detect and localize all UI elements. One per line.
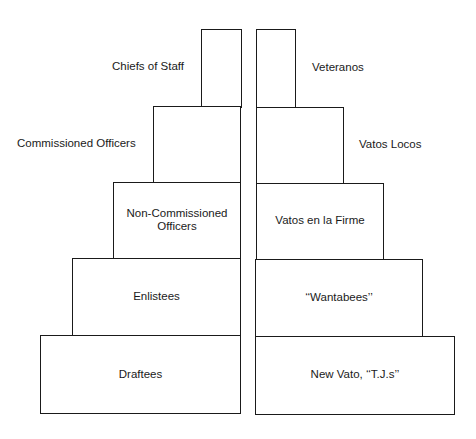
label-vatos-locos: Vatos Locos (359, 138, 421, 151)
level-box-vatos-locos (256, 107, 344, 185)
label-new-vato: New Vato, ‘‘T.J.s’’ (255, 368, 455, 381)
level-box-veteranos (256, 29, 296, 108)
label-non-commissioned-line1: Non-Commissioned (113, 207, 241, 220)
label-vatos-en-la-firme: Vatos en la Firme (256, 214, 384, 227)
label-chiefs-of-staff: Chiefs of Staff (112, 60, 184, 73)
label-enlistees: Enlistees (72, 290, 241, 303)
label-veteranos: Veteranos (312, 61, 364, 74)
label-commissioned-officers: Commissioned Officers (17, 137, 136, 150)
label-draftees: Draftees (40, 368, 241, 381)
level-box-chiefs-of-staff (201, 29, 242, 108)
level-box-commissioned-officers (153, 106, 241, 184)
label-non-commissioned-line2: Officers (113, 220, 241, 233)
label-wantabees: ‘‘Wantabees’’ (255, 291, 423, 304)
